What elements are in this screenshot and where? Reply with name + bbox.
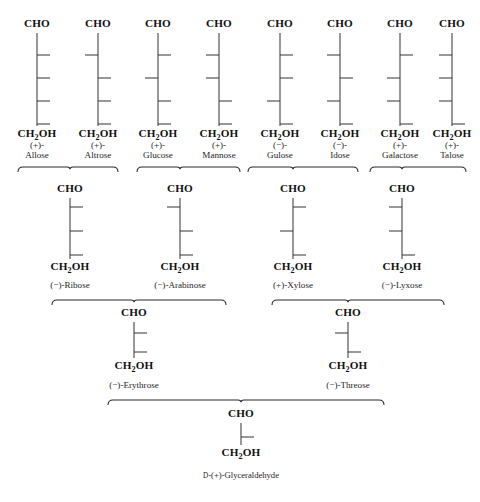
sugar-name-ribose: (−)-Ribose — [50, 280, 89, 290]
ch2oh-label-erythrose: CH2OH — [115, 359, 154, 374]
cho-label-arabinose: CHO — [167, 182, 193, 194]
sugar-name-talose-rotation: (+)- — [445, 140, 459, 150]
sugar-name-gulose: Gulose — [267, 150, 293, 160]
ch2oh-label-lyxose: CH2OH — [383, 260, 422, 275]
cho-label-galactose: CHO — [387, 17, 413, 29]
sugar-name-allose: Allose — [25, 150, 49, 160]
cho-label-ribose: CHO — [57, 182, 83, 194]
sugar-name-arabinose: (−)-Arabinose — [154, 280, 206, 290]
sugar-name-glucose: Glucose — [143, 150, 173, 160]
bracket-glucose-mannose — [137, 167, 240, 172]
sugar-name-galactose-rotation: (+)- — [393, 140, 407, 150]
sugar-name-mannose: Mannose — [202, 150, 235, 160]
bracket-gulose-idose — [248, 167, 358, 172]
sugar-name-altrose: Altrose — [85, 150, 112, 160]
ch2oh-label-arabinose: CH2OH — [161, 260, 200, 275]
sugar-name-lyxose: (−)-Lyxose — [382, 280, 422, 290]
ch2oh-label-ribose: CH2OH — [51, 260, 90, 275]
cho-label-altrose: CHO — [85, 17, 111, 29]
bracket-galactose-talose — [370, 167, 466, 172]
cho-label-idose: CHO — [327, 17, 353, 29]
sugar-name-talose: Talose — [440, 150, 464, 160]
sugar-name-xylose: (+)-Xylose — [273, 280, 313, 290]
ch2oh-label-glyceraldehyde: CH2OH — [222, 446, 261, 461]
sugar-name-gulose-rotation: (−)- — [273, 140, 287, 150]
bracket-erythrose-threose — [108, 400, 384, 405]
sugar-name-mannose-rotation: (+)- — [212, 140, 226, 150]
cho-label-gulose: CHO — [267, 17, 293, 29]
sugar-name-galactose: Galactose — [382, 150, 418, 160]
cho-label-mannose: CHO — [206, 17, 232, 29]
cho-label-talose: CHO — [439, 17, 465, 29]
sugar-name-idose: Idose — [330, 150, 350, 160]
cho-label-xylose: CHO — [280, 182, 306, 194]
aldose-family-tree-diagram: CHOCH2OH(+)-AlloseCHOCH2OH(+)-AltroseCHO… — [0, 0, 480, 502]
cho-label-threose: CHO — [335, 306, 361, 318]
cho-label-glucose: CHO — [145, 17, 171, 29]
cho-label-glyceraldehyde: CHO — [228, 407, 254, 419]
sugar-name-glucose-rotation: (+)- — [151, 140, 165, 150]
sugar-name-altrose-rotation: (+)- — [91, 140, 105, 150]
bracket-ribose-arabinose — [52, 300, 226, 305]
sugar-name-idose-rotation: (−)- — [333, 140, 347, 150]
sugar-name-allose-rotation: (+)- — [30, 140, 44, 150]
sugar-name-threose: (−)-Threose — [326, 380, 370, 390]
bracket-xylose-lyxose — [272, 300, 444, 305]
ch2oh-label-threose: CH2OH — [329, 359, 368, 374]
cho-label-erythrose: CHO — [121, 306, 147, 318]
ch2oh-label-xylose: CH2OH — [274, 260, 313, 275]
bracket-allose-altrose — [18, 167, 118, 172]
sugar-name-erythrose: (−)-Erythrose — [109, 380, 159, 390]
cho-label-allose: CHO — [24, 17, 50, 29]
sugar-name-glyceraldehyde: D-(+)-Glyceraldehyde — [203, 470, 279, 480]
diagram-canvas: CHOCH2OH(+)-AlloseCHOCH2OH(+)-AltroseCHO… — [0, 0, 480, 502]
cho-label-lyxose: CHO — [389, 182, 415, 194]
